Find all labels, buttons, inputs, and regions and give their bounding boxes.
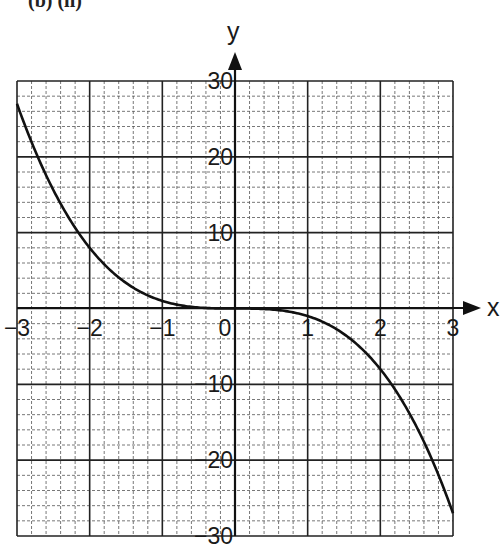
x-axis-arrow-icon [463, 301, 481, 315]
y-tick-label: 30 [207, 68, 233, 94]
x-tick-label: 0 [219, 315, 232, 341]
y-axis-label: y [227, 17, 240, 45]
axes [17, 52, 481, 536]
cubic-graph: −3−2−10123 302010−10−20−30 x y [0, 0, 502, 558]
x-axis-label: x [487, 293, 500, 321]
x-tick-label: −1 [149, 315, 175, 341]
y-tick-label: 20 [207, 144, 233, 170]
x-tick-label: −2 [77, 315, 103, 341]
y-tick-label: −10 [194, 371, 233, 397]
x-tick-label: 3 [447, 315, 460, 341]
y-tick-label: 10 [207, 220, 233, 246]
y-tick-label: −30 [194, 523, 233, 549]
x-tick-label: −3 [4, 315, 30, 341]
x-tick-label: 1 [301, 315, 314, 341]
x-tick-label: 2 [374, 315, 387, 341]
x-tick-labels: −3−2−10123 [4, 315, 460, 341]
y-tick-label: −20 [194, 447, 233, 473]
